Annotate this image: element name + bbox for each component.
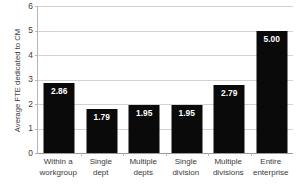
bar-value-label: 1.95 bbox=[171, 109, 202, 118]
x-category-label-line: division bbox=[165, 167, 208, 178]
bar-slot: 5.00 bbox=[251, 6, 294, 153]
x-category-label: Multipledivisions bbox=[207, 156, 250, 178]
y-axis-tickmark bbox=[35, 153, 38, 154]
bar-slot: 1.95 bbox=[166, 6, 209, 153]
bar-slot: 2.86 bbox=[38, 6, 81, 153]
bar[interactable]: 1.79 bbox=[86, 109, 117, 153]
bar[interactable]: 1.95 bbox=[171, 105, 202, 153]
plot-area: 2.861.791.951.952.795.00 bbox=[37, 6, 293, 153]
x-category-label: Singledept bbox=[80, 156, 123, 178]
y-tick-label: 3 bbox=[18, 75, 33, 84]
bar[interactable]: 2.86 bbox=[44, 83, 75, 153]
bar-slot: 1.79 bbox=[81, 6, 124, 153]
bar-slot: 1.95 bbox=[123, 6, 166, 153]
bar[interactable]: 5.00 bbox=[256, 31, 287, 154]
x-category-label-line: depts bbox=[122, 167, 165, 178]
x-axis-category-labels: Within aworkgroupSingledeptMultipledepts… bbox=[37, 156, 292, 190]
bar-value-label: 5.00 bbox=[256, 35, 287, 44]
bar-chart: Average FTE dedicated to CM 6543210 2.86… bbox=[0, 0, 296, 190]
x-category-label-line: Single bbox=[80, 156, 123, 167]
bar-value-label: 1.95 bbox=[129, 109, 160, 118]
y-tick-label: 1 bbox=[18, 124, 33, 133]
y-tick-label: 2 bbox=[18, 100, 33, 109]
bar-slot: 2.79 bbox=[208, 6, 251, 153]
y-tick-label: 4 bbox=[18, 51, 33, 60]
cropped-title-remnant bbox=[0, 0, 296, 4]
y-tick-label: 0 bbox=[18, 149, 33, 158]
x-category-label-line: Multiple bbox=[122, 156, 165, 167]
x-category-label: Entireenterprise bbox=[250, 156, 293, 178]
x-category-label-line: Multiple bbox=[207, 156, 250, 167]
bar[interactable]: 2.79 bbox=[214, 85, 245, 153]
x-category-label-line: Single bbox=[165, 156, 208, 167]
x-category-label-line: workgroup bbox=[37, 167, 80, 178]
bar-value-label: 2.79 bbox=[214, 89, 245, 98]
x-category-label-line: Within a bbox=[37, 156, 80, 167]
x-category-label: Singledivision bbox=[165, 156, 208, 178]
y-axis-tick-labels: 6543210 bbox=[18, 0, 33, 190]
x-category-label: Within aworkgroup bbox=[37, 156, 80, 178]
x-category-label: Multipledepts bbox=[122, 156, 165, 178]
x-category-label-line: dept bbox=[80, 167, 123, 178]
bars-layer: 2.861.791.951.952.795.00 bbox=[38, 6, 293, 153]
x-category-label-line: divisions bbox=[207, 167, 250, 178]
bar[interactable]: 1.95 bbox=[129, 105, 160, 153]
x-category-label-line: enterprise bbox=[250, 167, 293, 178]
y-tick-label: 5 bbox=[18, 26, 33, 35]
y-tick-label: 6 bbox=[18, 2, 33, 11]
bar-value-label: 1.79 bbox=[86, 113, 117, 122]
bar-value-label: 2.86 bbox=[44, 87, 75, 96]
x-category-label-line: Entire bbox=[250, 156, 293, 167]
